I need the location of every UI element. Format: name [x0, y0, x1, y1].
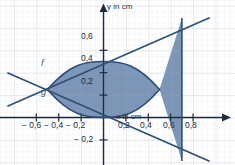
y-tick-label-1: 0,4	[81, 53, 93, 63]
y-tick-label-3: − 0,2	[74, 134, 93, 144]
x-tick-label-1: − 0,4	[44, 120, 63, 130]
y-tick-label-0: 0,6	[81, 31, 93, 41]
x-tick-label-0: − 0,6	[22, 120, 41, 130]
x-tick-label-2: − 0,2	[66, 120, 85, 130]
x-tick-label-4: 0,4	[140, 120, 152, 130]
curve-label-g: g	[41, 87, 46, 97]
curve-label-f: f	[41, 58, 44, 68]
coordinate-plot	[0, 0, 235, 165]
figure-container: x in cm y in cm − 0,6 − 0,4 − 0,2 0,2 0,…	[0, 0, 235, 165]
x-tick-label-6: 0,8	[185, 120, 197, 130]
y-axis-label: y in cm	[107, 2, 132, 11]
y-tick-label-2: 0,2	[81, 76, 93, 86]
x-tick-label-3: 0,2	[118, 120, 130, 130]
x-tick-label-5: 0,6	[163, 120, 175, 130]
